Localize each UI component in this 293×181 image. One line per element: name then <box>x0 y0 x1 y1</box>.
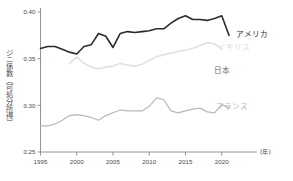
footer-caption-strip <box>8 177 103 181</box>
series-inline-labels: アメリカイギリス日本フランス <box>214 30 268 111</box>
x-tick-label: 2005 <box>106 158 120 165</box>
x-tick-label: 2020 <box>215 158 229 165</box>
x-axis-unit-label-group: (年) <box>260 148 271 156</box>
x-tick-label: 1995 <box>34 158 48 165</box>
y-tick-label: 0.40 <box>23 8 36 15</box>
series-label-日本: 日本 <box>214 65 230 75</box>
y-tick-label: 0.35 <box>23 55 36 62</box>
data-series-group <box>41 16 230 126</box>
x-tick-label: 2010 <box>142 158 156 165</box>
series-line-フランス <box>41 98 230 126</box>
chart-plot-area: 0.250.300.350.40199520002005201020152020… <box>0 0 293 181</box>
x-axis-unit-label: (年) <box>260 148 271 156</box>
series-label-イギリス: イギリス <box>218 43 250 52</box>
series-line-イギリス <box>70 43 222 69</box>
x-tick-label: 2000 <box>70 158 84 165</box>
series-label-フランス: フランス <box>216 102 248 111</box>
gini-coefficient-line-chart: ジニ係数（可処分所得） 0.250.300.350.40199520002005… <box>0 0 293 181</box>
series-label-アメリカ: アメリカ <box>236 30 268 39</box>
y-tick-label: 0.30 <box>23 102 36 109</box>
y-axis-title-wrap: ジニ係数（可処分所得） <box>2 16 16 156</box>
y-tick-label: 0.25 <box>23 148 36 155</box>
x-tick-label: 2015 <box>179 158 193 165</box>
series-line-アメリカ <box>41 16 230 54</box>
y-axis-title: ジニ係数（可処分所得） <box>4 48 15 125</box>
